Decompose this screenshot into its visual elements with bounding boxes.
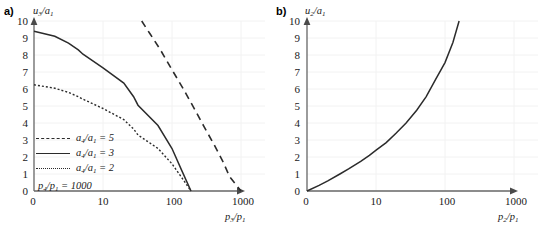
legend-line-solid-icon: [36, 153, 70, 154]
legend-line-dotted-icon: [36, 168, 70, 169]
panel-a: a) u3/a1 p3/p1 10 9 8 7 6 5 4 3 2 1 0 0 …: [0, 0, 273, 231]
legend-line-dashed-icon: [36, 138, 70, 139]
figure-root: a) u3/a1 p3/p1 10 9 8 7 6 5 4 3 2 1 0 0 …: [0, 0, 547, 231]
legend-label-solid: a4/a1 = 3: [76, 148, 114, 160]
legend-row-solid: a4/a1 = 3: [36, 146, 114, 161]
legend-row-dashed: a4/a1 = 5: [36, 131, 114, 146]
panel-b: b) u2/a1 p2/p1 10 9 8 7 6 5 4 3 2 1 0 0 …: [272, 0, 547, 231]
panel-b-plot-area: [272, 0, 547, 231]
panel-a-legend: a4/a1 = 5 a4/a1 = 3 a4/a1 = 2 p4/p1 = 10…: [36, 131, 114, 193]
legend-label-dotted: a4/a1 = 2: [76, 163, 114, 175]
legend-label-dashed: a4/a1 = 5: [76, 133, 114, 145]
legend-row-dotted: a4/a1 = 2: [36, 161, 114, 176]
panel-a-plot-area: [0, 0, 273, 231]
legend-note-pressure-ratio: p4/p1 = 1000: [36, 181, 114, 193]
panel-b-gridlines: [307, 21, 538, 191]
